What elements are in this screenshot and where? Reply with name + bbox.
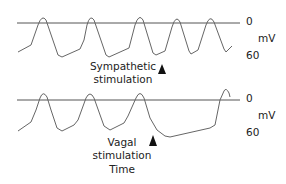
sympathetic-arrow-icon [158, 64, 166, 74]
top-axis-low-label: 60 [246, 49, 259, 62]
top-axis-zero-label: 0 [246, 15, 253, 28]
bottom-axis-unit-label: mV [258, 109, 275, 122]
vagal-stimulation-label: Vagal stimulation [92, 136, 152, 162]
vagal-label-line2: stimulation [92, 149, 152, 162]
bottom-axis-zero-label: 0 [246, 92, 253, 105]
sympathetic-stimulation-label: Sympathetic stimulation [88, 60, 158, 86]
sympathetic-label-line1: Sympathetic [88, 60, 158, 73]
bottom-action-potential-trace [18, 89, 230, 137]
top-axis-unit-label: mV [258, 32, 275, 45]
sympathetic-label-line2: stimulation [88, 73, 158, 86]
vagal-label-line1: Vagal [92, 136, 152, 149]
x-axis-time-label: Time [102, 163, 142, 176]
bottom-axis-low-label: 60 [246, 126, 259, 139]
